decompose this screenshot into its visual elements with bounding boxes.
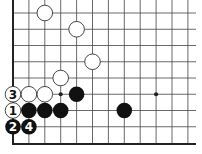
white-stone-icon — [69, 21, 85, 37]
move-number-label: 4 — [25, 120, 33, 134]
black-stone — [37, 103, 53, 119]
white-stone — [21, 86, 37, 102]
black-stone-4: 4 — [21, 119, 37, 135]
grid-lines — [13, 0, 196, 144]
white-stone-1: 1 — [5, 103, 21, 119]
white-stone-icon — [53, 70, 69, 86]
star-point-icon — [59, 92, 63, 96]
black-stone-2: 2 — [5, 119, 21, 135]
black-stone — [117, 103, 133, 119]
move-number-label: 2 — [9, 120, 17, 134]
black-stone-icon — [53, 103, 69, 119]
stones: 3124 — [5, 5, 132, 134]
black-stone — [53, 103, 69, 119]
board-edges — [12, 0, 196, 144]
black-stone-icon — [37, 103, 53, 119]
white-stone-icon — [37, 5, 53, 21]
move-number-label: 3 — [9, 88, 17, 102]
move-number-label: 1 — [9, 104, 17, 118]
white-stone — [69, 21, 85, 37]
black-stone-icon — [69, 86, 85, 102]
black-stone-icon — [21, 103, 37, 119]
star-point-icon — [154, 92, 158, 96]
black-stone — [69, 86, 85, 102]
white-stone-icon — [37, 86, 53, 102]
go-board: 3124 — [0, 0, 202, 154]
white-stone — [37, 86, 53, 102]
white-stone-icon — [21, 86, 37, 102]
white-stone — [37, 5, 53, 21]
black-stone-icon — [117, 103, 133, 119]
white-stone — [85, 54, 101, 70]
white-stone-icon — [85, 54, 101, 70]
white-stone — [53, 70, 69, 86]
black-stone — [21, 103, 37, 119]
white-stone-3: 3 — [5, 86, 21, 102]
